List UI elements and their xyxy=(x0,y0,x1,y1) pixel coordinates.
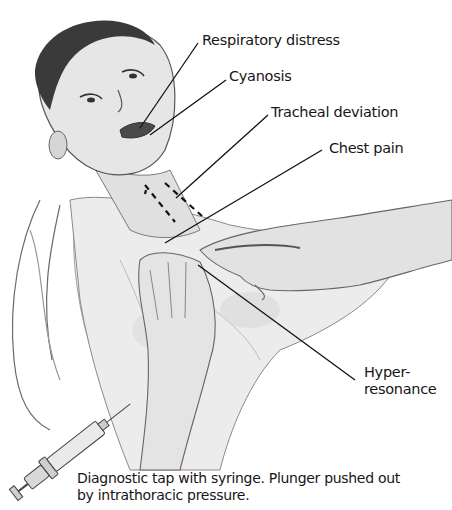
label-hyper-resonance-line2: resonance xyxy=(364,381,436,398)
head-drawing xyxy=(35,21,175,175)
caption-line2: by intrathoracic pressure. xyxy=(77,487,400,504)
figure-caption: Diagnostic tap with syringe. Plunger pus… xyxy=(77,470,400,504)
caption-line1: Diagnostic tap with syringe. Plunger pus… xyxy=(77,470,400,487)
label-chest-pain: Chest pain xyxy=(329,140,403,157)
label-hyper-resonance-line1: Hyper- xyxy=(364,364,436,381)
pneumothorax-illustration xyxy=(0,0,452,510)
label-respiratory-distress: Respiratory distress xyxy=(202,32,340,49)
label-cyanosis: Cyanosis xyxy=(229,68,291,85)
label-hyper-resonance: Hyper- resonance xyxy=(364,364,436,398)
label-tracheal-deviation: Tracheal deviation xyxy=(271,104,398,121)
